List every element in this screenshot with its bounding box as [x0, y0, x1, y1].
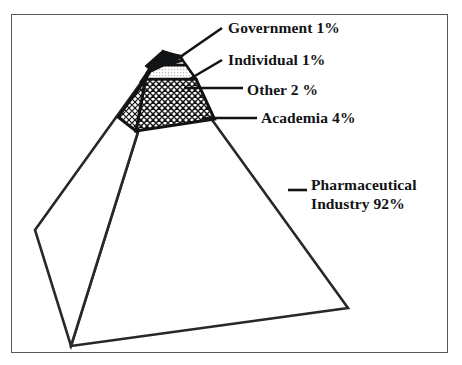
pyramid-figure: Government 1% Individual 1% Other 2 % Ac…: [0, 0, 462, 365]
label-individual: Individual 1%: [228, 51, 325, 69]
label-pharmaceutical-line2: Industry 92%: [311, 194, 417, 213]
label-pharmaceutical-industry: Pharmaceutical Industry 92%: [311, 175, 417, 213]
label-pharmaceutical-line1: Pharmaceutical: [311, 175, 417, 194]
leader-line-government: [170, 28, 222, 64]
label-academia: Academia 4%: [261, 109, 356, 127]
label-other: Other 2 %: [247, 81, 318, 99]
leader-line-individual: [188, 60, 222, 80]
label-government: Government 1%: [228, 19, 340, 37]
